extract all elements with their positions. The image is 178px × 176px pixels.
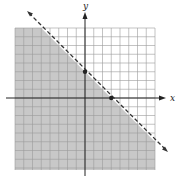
y-intercept-point	[83, 70, 87, 74]
x-intercept-point	[109, 96, 113, 100]
line-arrow-top-icon	[27, 11, 33, 17]
y-axis-label: y	[82, 1, 89, 11]
y-axis-arrow-icon	[83, 12, 88, 19]
inequality-graph: x y	[0, 0, 178, 176]
x-axis-label: x	[170, 93, 175, 103]
x-axis-arrow-icon	[159, 96, 166, 101]
